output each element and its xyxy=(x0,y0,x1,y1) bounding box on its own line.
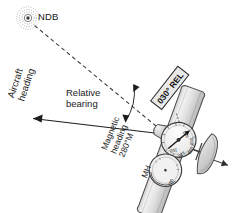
aircraft-top-view-icon xyxy=(126,81,235,213)
relative-bearing-line-2: bearing xyxy=(66,99,100,110)
dashed-bearing-line-icon xyxy=(35,26,163,132)
ndb-label: NDB xyxy=(38,12,59,23)
adf-tick-060: 060 xyxy=(189,138,195,146)
bearing-pointer-arrow-icon xyxy=(129,82,139,92)
adf-tick-150: 150 xyxy=(170,147,178,153)
heading-arrow-icon xyxy=(33,115,163,134)
figure-canvas: NDB Relative bearing Aircraft heading Ma… xyxy=(0,0,235,213)
diagram-vector-layer xyxy=(0,0,235,213)
relative-bearing-label: Relative bearing xyxy=(66,88,100,109)
ndb-station-icon xyxy=(17,7,39,29)
